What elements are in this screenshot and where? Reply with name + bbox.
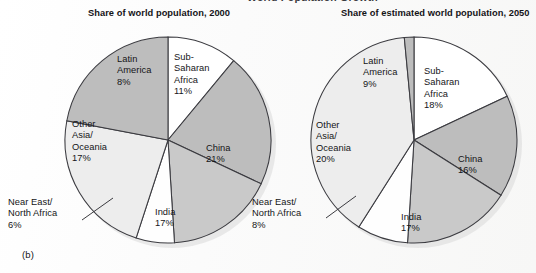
pie-chart-2050: Sub- Saharan Africa 18% China 16% India … [306,32,526,252]
slice-value-latin-america-2000: 8% [117,77,151,89]
slice-name-other-asia-oceania-2000: Other Asia/ Oceania [72,119,107,152]
slice-name-china-2050: China [458,154,483,164]
callout-value-near-east-north-africa-2050: 8% [252,220,301,232]
slice-value-china-2050: 16% [458,165,483,177]
slice-name-sub-saharan-africa-2000: Sub- Saharan Africa [174,52,210,85]
callout-name-near-east-north-africa-2050: Near East/ North Africa [252,197,301,219]
slice-value-sub-saharan-africa-2050: 18% [424,100,460,112]
cropped-header-strip: World Population Growth [0,0,536,5]
slice-label-latin-america-2050: Latin America 9% [363,44,397,102]
slice-label-china-2000: China 21% [206,131,231,177]
pie-chart-2000: Sub- Saharan Africa 11% China 21% India … [60,32,280,252]
slice-name-latin-america-2000: Latin America [117,54,151,76]
slice-name-latin-america-2050: Latin America [363,56,397,78]
callout-near-east-north-africa-2050: Near East/ North Africa 8% [252,185,301,243]
slice-label-china-2050: China 16% [458,142,483,188]
figure-part-label: (b) [22,249,34,260]
slice-label-other-asia-oceania-2050: Other Asia/ Oceania 20% [316,108,351,178]
slice-name-other-asia-oceania-2050: Other Asia/ Oceania [316,120,351,153]
cropped-header-text: World Population Growth [247,0,378,3]
slice-name-sub-saharan-africa-2050: Sub- Saharan Africa [424,66,460,99]
slice-label-other-asia-oceania-2000: Other Asia/ Oceania 17% [72,107,107,177]
chart-title-2000: Share of world population, 2000 [88,8,230,18]
figure-two-pie-charts: World Population Growth Share of world p… [0,0,536,273]
slice-name-india-2000: India [155,207,175,217]
slice-value-other-asia-oceania-2000: 17% [72,153,107,165]
slice-name-india-2050: India [401,212,421,222]
slice-label-india-2000: India 17% [155,195,175,241]
slice-value-india-2050: 17% [401,223,421,235]
callout-near-east-north-africa-2000: Near East/ North Africa 6% [8,185,57,243]
slice-value-sub-saharan-africa-2000: 11% [174,86,210,98]
slice-value-india-2000: 17% [155,218,175,230]
slice-label-latin-america-2000: Latin America 8% [117,42,151,100]
slice-label-sub-saharan-africa-2000: Sub- Saharan Africa 11% [174,40,210,110]
slice-name-china-2000: China [206,143,231,153]
slice-value-other-asia-oceania-2050: 20% [316,154,351,166]
slice-label-sub-saharan-africa-2050: Sub- Saharan Africa 18% [424,54,460,124]
slice-value-china-2000: 21% [206,154,231,166]
slice-label-india-2050: India 17% [401,200,421,246]
slice-value-latin-america-2050: 9% [363,79,397,91]
callout-value-near-east-north-africa-2000: 6% [8,220,57,232]
chart-title-2050: Share of estimated world population, 205… [341,8,530,18]
callout-name-near-east-north-africa-2000: Near East/ North Africa [8,197,57,219]
